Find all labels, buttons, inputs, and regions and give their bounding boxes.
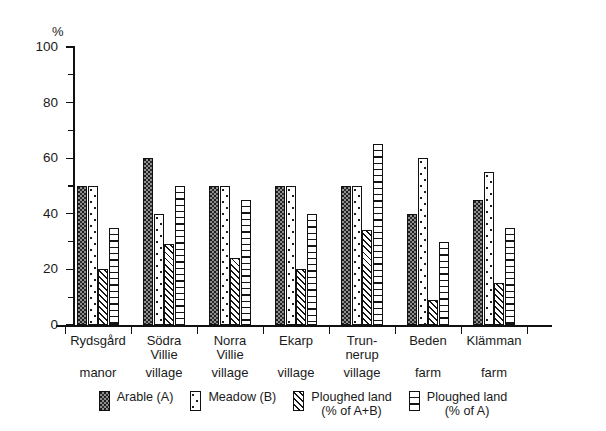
bar <box>418 158 428 325</box>
bar <box>175 186 185 325</box>
y-tick-major <box>66 46 74 47</box>
bar <box>230 258 240 325</box>
bar-group <box>77 47 119 325</box>
x-tick <box>329 326 330 334</box>
bar-chart-figure: % 020406080100 Rydsgård manorSödraVillie… <box>0 0 606 431</box>
x-tick <box>527 326 528 334</box>
legend-label-line2: (% of A+B) <box>311 404 392 418</box>
y-tick-label: 100 <box>16 40 58 54</box>
legend-label: Ploughed land(% of A+B) <box>311 390 392 418</box>
bar <box>352 186 362 325</box>
bar-group <box>209 47 251 325</box>
legend-swatch <box>409 391 420 411</box>
legend-swatch <box>99 391 110 411</box>
x-label-line1: Klämman <box>449 334 539 348</box>
plot-area <box>74 47 550 325</box>
legend-swatch <box>293 391 304 411</box>
y-tick-major <box>66 324 74 325</box>
bar <box>505 228 515 325</box>
y-tick-major <box>66 102 74 103</box>
bar-group <box>143 47 185 325</box>
legend-item: Ploughed land(% of A) <box>409 390 508 418</box>
bar-group <box>407 47 449 325</box>
y-axis-unit-label: % <box>52 24 64 39</box>
y-tick-label: 20 <box>16 263 58 277</box>
bar <box>220 186 230 325</box>
legend-label: Arable (A) <box>117 390 174 404</box>
bar-group <box>341 47 383 325</box>
y-tick-label: 60 <box>16 151 58 165</box>
bar <box>407 214 417 325</box>
x-label-line3: farm <box>449 366 539 380</box>
y-tick-label: 0 <box>16 318 58 332</box>
x-axis-label: Klämman farm <box>449 334 539 380</box>
x-tick <box>395 326 396 334</box>
bar <box>143 158 153 325</box>
y-tick-major <box>66 158 74 159</box>
legend-item: Ploughed land(% of A+B) <box>293 390 392 418</box>
legend-item: Arable (A) <box>99 390 174 411</box>
legend-label-line1: Arable (A) <box>117 390 174 404</box>
legend-label-line1: Ploughed land <box>427 390 508 404</box>
legend-label-line2: (% of A) <box>427 404 508 418</box>
bar <box>77 186 87 325</box>
bar <box>241 200 251 325</box>
legend-swatch <box>190 391 201 411</box>
bar <box>439 242 449 325</box>
bar <box>98 269 108 325</box>
bar <box>362 230 372 325</box>
chart-legend: Arable (A)Meadow (B)Ploughed land(% of A… <box>0 390 606 418</box>
bar <box>473 200 483 325</box>
bar <box>286 186 296 325</box>
bar <box>275 186 285 325</box>
legend-label: Meadow (B) <box>208 390 276 404</box>
legend-label-line1: Ploughed land <box>311 390 392 404</box>
bar-group <box>473 47 515 325</box>
bar <box>494 283 504 325</box>
bar <box>484 172 494 325</box>
bar <box>109 228 119 325</box>
legend-item: Meadow (B) <box>190 390 276 411</box>
bar <box>373 144 383 325</box>
bar <box>428 300 438 325</box>
x-tick <box>131 326 132 334</box>
bar <box>341 186 351 325</box>
bar <box>88 186 98 325</box>
y-tick-major <box>66 213 74 214</box>
bar <box>154 214 164 325</box>
x-tick <box>263 326 264 334</box>
x-label-line2 <box>449 348 539 362</box>
legend-label: Ploughed land(% of A) <box>427 390 508 418</box>
y-tick-major <box>66 269 74 270</box>
x-tick <box>461 326 462 334</box>
y-tick-label: 80 <box>16 96 58 110</box>
x-axis-labels: Rydsgård manorSödraVillievillageNorraVil… <box>0 334 606 386</box>
bar <box>209 186 219 325</box>
bar <box>296 269 306 325</box>
x-tick <box>197 326 198 334</box>
y-tick-label: 40 <box>16 207 58 221</box>
x-tick <box>65 326 66 334</box>
bar-group <box>275 47 317 325</box>
bar <box>307 214 317 325</box>
bar <box>164 244 174 325</box>
legend-label-line1: Meadow (B) <box>208 390 276 404</box>
